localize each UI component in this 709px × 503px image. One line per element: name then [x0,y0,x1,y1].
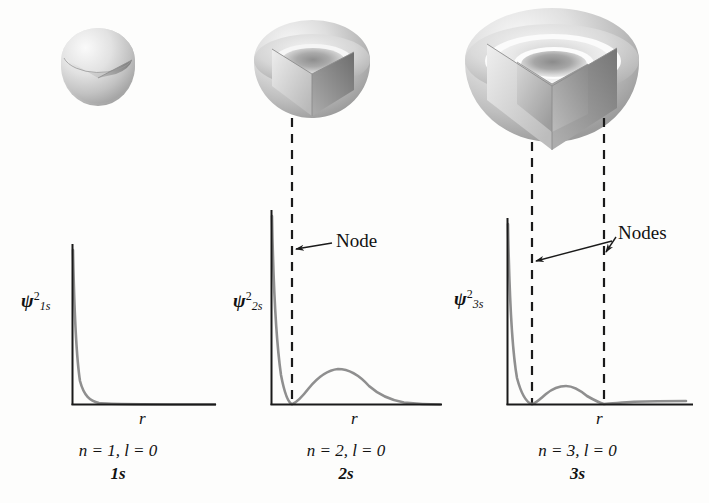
psi-subscript-1s: 1s [40,299,51,313]
quantum-numbers-3s: n = 3, l = 0 [446,440,709,461]
plot-3s [446,0,709,503]
y-axis-label-1s: ψ21s [21,290,50,312]
node-leader-3s-inner [536,241,612,261]
node-annotation-3s: Nodes [618,222,667,244]
node-annotation-2s: Node [336,230,377,252]
y-axis-label-2s: ψ22s [233,290,262,312]
psi-symbol-3s: ψ [454,288,467,309]
panel-3s: Nodes ψ23s r n = 3, l = 0 3s [446,0,709,503]
psi-subscript-2s: 2s [252,299,263,313]
x-axis-label-2s: r [351,410,358,427]
panel-2s: Node ψ22s r n = 2, l = 0 2s [228,0,464,503]
quantum-numbers-2s: n = 2, l = 0 [228,440,464,461]
psi-subscript-3s: 3s [473,297,484,311]
node-leader-2s [296,243,332,249]
panel-1s: ψ21s r n = 1, l = 0 1s [0,0,236,503]
node-leader-3s-outer [606,237,616,252]
curve-1s [73,250,215,405]
y-axis-label-3s: ψ23s [454,288,483,310]
orbital-name-3s: 3s [446,464,709,484]
curve-3s [508,224,686,404]
orbital-name-2s: 2s [228,464,464,484]
orbital-name-1s: 1s [0,464,236,484]
plot-1s [0,0,236,503]
quantum-numbers-1s: n = 1, l = 0 [0,440,236,461]
psi-symbol-2s: ψ [233,290,246,311]
x-axis-label-1s: r [139,410,146,427]
x-axis-label-3s: r [596,410,603,427]
psi-symbol-1s: ψ [21,290,34,311]
orbital-figure: ψ21s r n = 1, l = 0 1s [0,0,709,503]
